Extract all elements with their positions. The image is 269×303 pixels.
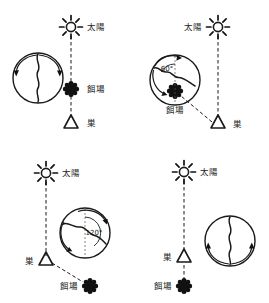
food-source-flower-icon [82,278,98,294]
sun-starburst-icon [207,16,230,39]
food-source-flower-icon [176,278,192,294]
nest-label: 巣 [25,256,34,266]
honeycomb-dance-circle: 60° [150,55,200,105]
panel-food-60-degrees: 太陽 餌場 巣 [134,0,269,152]
food-label: 餌場 [60,281,78,291]
dance-loop-arrow [78,210,106,222]
dance-loop-arrow [16,55,37,74]
dance-loop-arrow [153,70,165,94]
honeycomb-dance-circle [13,53,63,103]
food-source-flower-icon [63,81,79,97]
panel-food-120-degrees: 太陽 巣 餌場 [0,151,135,303]
panel-food-away-from-sun: 太陽 巣 餌場 [134,151,269,303]
food-label: 餌場 [154,281,172,291]
angle-label: 60° [161,65,173,73]
sun-label: 太陽 [87,22,105,32]
dance-loop-arrow [231,245,252,264]
dance-loop-arrow [39,55,60,74]
sun-starburst-icon [60,16,83,39]
nest-triangle-icon [39,252,53,265]
sun-label: 太陽 [184,22,202,32]
angle-label: 120° [86,229,103,237]
sun-label: 太陽 [62,168,80,178]
honeycomb-dance-circle: 120° [60,208,110,258]
panel-food-toward-sun: 太陽 餌場 巣 [0,0,135,152]
nest-label: 巣 [163,252,172,262]
food-label: 餌場 [166,105,184,115]
sun-label: 太陽 [200,167,218,177]
sun-starburst-icon [35,162,58,185]
nest-label: 巣 [87,118,96,128]
dance-loop-arrow [61,222,70,250]
waggle-run-wavy-line [37,54,39,102]
food-label: 餌場 [87,84,105,94]
nest-label: 巣 [233,119,242,129]
dance-loop-arrow [208,245,229,264]
waggle-dance-figure: 太陽 餌場 巣 [0,0,269,303]
waggle-run-wavy-line [229,217,231,265]
sun-starburst-icon [173,161,196,184]
nest-triangle-icon [177,249,191,262]
honeycomb-dance-circle [205,216,255,266]
